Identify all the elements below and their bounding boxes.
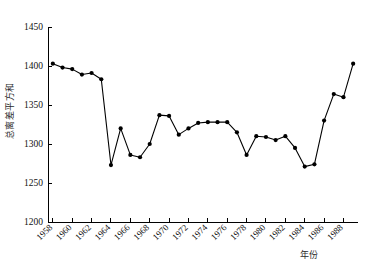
x-tick-label: 1968 <box>131 222 151 242</box>
x-tick-label: 1970 <box>151 222 171 242</box>
data-point <box>60 65 64 69</box>
data-point <box>341 95 345 99</box>
x-tick-label: 1966 <box>112 222 132 242</box>
data-point <box>264 135 268 139</box>
y-tick-label: 1350 <box>24 100 43 110</box>
data-point <box>225 120 229 124</box>
data-point <box>283 134 287 138</box>
data-point <box>167 114 171 118</box>
data-point <box>80 72 84 76</box>
data-point <box>186 126 190 130</box>
data-point <box>148 142 152 146</box>
y-tick-label: 1250 <box>24 178 43 188</box>
data-point <box>244 153 248 157</box>
data-series-line <box>53 64 353 167</box>
data-point <box>235 130 239 134</box>
data-point <box>293 146 297 150</box>
x-tick-label: 1960 <box>54 222 74 242</box>
x-tick-label: 1988 <box>325 222 345 242</box>
data-point <box>99 77 103 81</box>
data-point <box>138 155 142 159</box>
data-point <box>274 138 278 142</box>
data-point <box>254 134 258 138</box>
chart-container: 总离差平方和 年份 120012501300135014001450 19581… <box>0 0 368 268</box>
line-chart-plot: 120012501300135014001450 195819601962196… <box>0 0 368 268</box>
data-point <box>312 162 316 166</box>
data-point <box>351 62 355 66</box>
data-point-group <box>51 62 356 169</box>
data-point <box>322 119 326 123</box>
x-tick-label: 1964 <box>93 222 113 242</box>
y-tick-label: 1300 <box>24 139 43 149</box>
x-tick-label: 1980 <box>248 222 268 242</box>
data-point <box>109 163 113 167</box>
data-point <box>128 153 132 157</box>
data-point <box>177 133 181 137</box>
y-tick-label: 1450 <box>24 22 43 32</box>
x-tick-label: 1982 <box>267 222 287 242</box>
data-point <box>332 92 336 96</box>
data-point <box>51 62 55 66</box>
data-point <box>157 113 161 117</box>
data-point <box>215 120 219 124</box>
y-tick-label: 1200 <box>24 217 43 227</box>
data-point <box>70 67 74 71</box>
data-point <box>119 126 123 130</box>
data-point <box>206 120 210 124</box>
x-tick-label: 1974 <box>189 222 209 242</box>
x-tick-label: 1984 <box>286 222 306 242</box>
data-point <box>303 165 307 169</box>
x-tick-label: 1972 <box>170 222 190 242</box>
data-point <box>196 121 200 125</box>
y-tick-label: 1400 <box>24 61 43 71</box>
x-tick-label: 1986 <box>306 222 326 242</box>
data-point <box>89 71 93 75</box>
x-tick-label: 1978 <box>228 222 248 242</box>
x-tick-label: 1962 <box>73 222 93 242</box>
x-tick-label: 1976 <box>209 222 229 242</box>
